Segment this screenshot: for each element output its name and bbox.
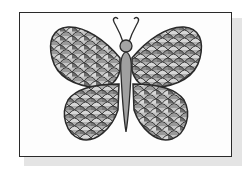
butterfly-head bbox=[120, 40, 132, 52]
left-antenna bbox=[113, 18, 123, 42]
upper-left-wing bbox=[51, 27, 120, 88]
right-antenna bbox=[129, 18, 139, 42]
upper-right-wing bbox=[132, 27, 201, 88]
lower-left-wing bbox=[64, 84, 119, 140]
lower-right-wing bbox=[133, 84, 188, 140]
butterfly-illustration bbox=[0, 0, 252, 178]
butterfly-body bbox=[121, 52, 132, 132]
